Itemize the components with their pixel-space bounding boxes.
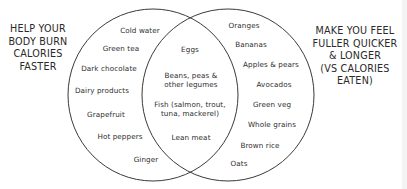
left-item: Cold water xyxy=(120,26,160,35)
left-item: Hot peppers xyxy=(97,132,142,141)
right-item: Oats xyxy=(230,159,247,168)
left-item: Grapefruit xyxy=(87,110,125,119)
right-item: Whole grains xyxy=(248,120,296,129)
right-item: Oranges xyxy=(228,21,259,30)
left-item: Green tea xyxy=(103,44,140,53)
intersection-item: Fish (salmon, trout, tuna, mackerel) xyxy=(154,100,225,118)
right-item: Bananas xyxy=(235,40,267,49)
left-set-title: HELP YOUR BODY BURN CALORIES FASTER xyxy=(9,23,68,73)
right-set-title: MAKE YOU FEEL FULLER QUICKER & LONGER (V… xyxy=(313,25,398,88)
left-item: Ginger xyxy=(134,155,159,164)
right-item: Avocados xyxy=(256,80,291,89)
intersection-item: Lean meat xyxy=(171,133,210,142)
right-item: Brown rice xyxy=(240,141,279,150)
intersection-item: Eggs xyxy=(181,45,199,54)
right-circle xyxy=(142,9,314,181)
right-item: Green veg xyxy=(253,100,291,109)
left-item: Dark chocolate xyxy=(81,64,137,73)
left-item: Dairy products xyxy=(75,86,129,95)
right-item: Apples & pears xyxy=(243,60,299,69)
intersection-item: Beans, peas & other legumes xyxy=(164,71,217,89)
